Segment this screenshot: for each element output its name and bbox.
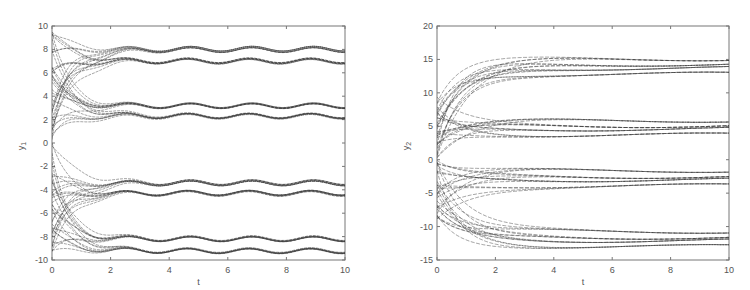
y-tick-label: 10 <box>423 88 433 98</box>
y-tick-label: 20 <box>423 21 433 31</box>
x-axis-label: t <box>197 277 200 287</box>
y-tick-label: 5 <box>428 121 433 131</box>
y-tick-label: -10 <box>420 222 433 232</box>
x-tick-label: 10 <box>724 265 734 275</box>
axes: 02468101086420-2-4-6-8-10ty1 <box>16 21 350 287</box>
y-tick-label: 0 <box>43 138 48 148</box>
y-tick-label: -6 <box>40 208 48 218</box>
x-tick-label: 4 <box>551 265 556 275</box>
y-tick-label: -5 <box>425 188 433 198</box>
y-tick-label: -8 <box>40 232 48 242</box>
x-tick-label: 4 <box>167 265 172 275</box>
y-tick-label: 4 <box>43 91 48 101</box>
x-tick-label: 0 <box>49 265 54 275</box>
y-axis-label: y1 <box>16 142 27 151</box>
x-tick-label: 6 <box>610 265 615 275</box>
x-tick-label: 6 <box>225 265 230 275</box>
y-tick-label: 0 <box>428 155 433 165</box>
y-tick-label: 15 <box>423 54 433 64</box>
trajectories <box>52 32 345 254</box>
x-tick-label: 2 <box>493 265 498 275</box>
chart-y1-panel: 02468101086420-2-4-6-8-10ty1 <box>0 0 375 290</box>
y-tick-label: 10 <box>38 21 48 31</box>
y-axis-label: y2 <box>401 142 412 151</box>
x-axis-label: t <box>582 277 585 287</box>
chart-y2-panel: 024681020151050-5-10-15ty2 <box>375 0 750 290</box>
y-tick-label: 8 <box>43 44 48 54</box>
x-tick-label: 0 <box>434 265 439 275</box>
y-tick-label: -2 <box>40 161 48 171</box>
y-tick-label: 2 <box>43 115 48 125</box>
x-tick-label: 2 <box>108 265 113 275</box>
y-tick-label: -4 <box>40 185 48 195</box>
x-tick-label: 8 <box>284 265 289 275</box>
x-tick-label: 10 <box>340 265 350 275</box>
y-tick-label: -10 <box>35 255 48 265</box>
chart-y2: 024681020151050-5-10-15ty2 <box>375 0 750 290</box>
trajectories <box>437 57 729 248</box>
y-tick-label: -15 <box>420 255 433 265</box>
chart-y1: 02468101086420-2-4-6-8-10ty1 <box>0 0 375 290</box>
y-tick-label: 6 <box>43 68 48 78</box>
x-tick-label: 8 <box>668 265 673 275</box>
